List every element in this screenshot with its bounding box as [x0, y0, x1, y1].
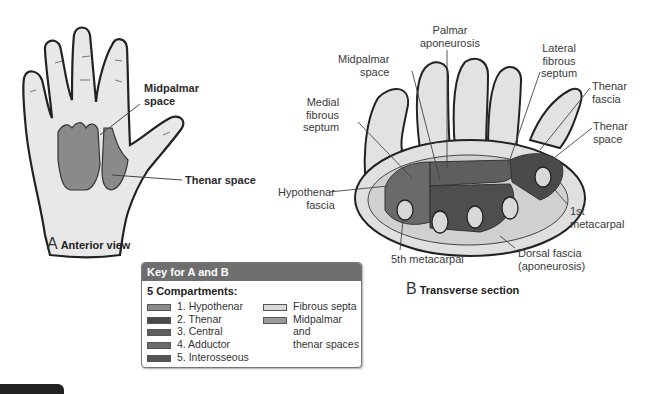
- swatch-fibrous-septa: [263, 304, 287, 311]
- legend-label-line: thenar spaces: [293, 338, 359, 350]
- legend-compartments: 1. Hypothenar 2. Thenar 3. Central 4. Ad…: [147, 300, 249, 364]
- label-hypothenar-fascia: Hypothenar fascia: [278, 186, 335, 211]
- label-line: septum: [541, 67, 577, 80]
- legend-label: 3. Central: [177, 325, 223, 338]
- label-line: Midpalmar: [338, 53, 389, 66]
- label-a-midpalmar-space: Midpalmar space: [144, 82, 199, 107]
- legend-item: Fibrous septa: [263, 300, 361, 313]
- label-line: Hypothenar: [278, 186, 335, 199]
- label-line: fascia: [278, 199, 335, 212]
- corner-tab: [0, 384, 64, 394]
- label-dorsal-fascia: Dorsal fascia (aponeurosis): [518, 247, 585, 272]
- legend-item: 4. Adductor: [147, 338, 249, 351]
- legend-label: 1. Hypothenar: [177, 300, 243, 313]
- label-line: space: [338, 66, 389, 79]
- swatch-central: [147, 329, 171, 336]
- swatch-hypothenar: [147, 304, 171, 311]
- label-line: Thenar: [592, 80, 627, 93]
- label-line: metacarpal: [570, 218, 624, 231]
- label-line: Thenar: [593, 120, 628, 133]
- label-line: Medial: [303, 96, 339, 109]
- hand-transverse-illustration: [329, 50, 592, 256]
- legend-other: Fibrous septa Midpalmar andthenar spaces: [263, 300, 361, 351]
- caption-a-letter: A: [47, 235, 58, 252]
- caption-b: BTransverse section: [406, 280, 519, 298]
- label-line: space: [593, 133, 628, 146]
- label-b-thenar-space: Thenar space: [593, 120, 628, 145]
- legend-key: Key for A and B 5 Compartments: 1. Hypot…: [141, 262, 362, 368]
- swatch-adductor: [147, 342, 171, 349]
- label-line: septum: [303, 121, 339, 134]
- label-line: 1st: [570, 205, 624, 218]
- label-5th-metacarpal: 5th metacarpal: [391, 253, 464, 266]
- label-line: space: [144, 95, 199, 108]
- legend-label: 5. Interosseous: [177, 351, 249, 364]
- legend-subtitle: 5 Compartments:: [147, 285, 356, 297]
- caption-a-text: Anterior view: [61, 239, 131, 251]
- legend-item: 3. Central: [147, 325, 249, 338]
- legend-item: 1. Hypothenar: [147, 300, 249, 313]
- label-b-midpalmar-space: Midpalmar space: [338, 53, 389, 78]
- legend-label: 4. Adductor: [177, 338, 230, 351]
- swatch-interosseous: [147, 355, 171, 362]
- label-line: aponeurosis: [420, 37, 480, 50]
- label-thenar-fascia: Thenar fascia: [592, 80, 627, 105]
- legend-body: 5 Compartments: 1. Hypothenar 2. Thenar …: [142, 281, 361, 303]
- caption-b-letter: B: [406, 280, 417, 297]
- legend-item: 2. Thenar: [147, 313, 249, 326]
- label-medial-fibrous-septum: Medial fibrous septum: [303, 96, 339, 134]
- swatch-thenar: [147, 317, 171, 324]
- legend-label: Midpalmar andthenar spaces: [293, 313, 361, 351]
- label-line: (aponeurosis): [518, 260, 585, 273]
- label-palmar-aponeurosis: Palmar aponeurosis: [420, 24, 480, 49]
- legend-label: Fibrous septa: [293, 300, 357, 313]
- label-lateral-fibrous-septum: Lateral fibrous septum: [541, 42, 577, 80]
- label-line: fibrous: [303, 109, 339, 122]
- label-line: Lateral: [541, 42, 577, 55]
- legend-item: Midpalmar andthenar spaces: [263, 313, 361, 351]
- label-line: Palmar: [420, 24, 480, 37]
- caption-a: AAnterior view: [47, 235, 130, 253]
- legend-title: Key for A and B: [142, 263, 361, 281]
- label-line: Midpalmar: [144, 82, 199, 95]
- legend-item: 5. Interosseous: [147, 351, 249, 364]
- label-line: fibrous: [541, 55, 577, 68]
- label-line: fascia: [592, 93, 627, 106]
- label-line: Dorsal fascia: [518, 247, 585, 260]
- legend-label-line: Midpalmar and: [293, 313, 342, 338]
- caption-b-text: Transverse section: [420, 284, 520, 296]
- label-1st-metacarpal: 1st metacarpal: [570, 205, 624, 230]
- hand-anterior-illustration: [23, 28, 183, 258]
- label-a-thenar-space: Thenar space: [185, 174, 256, 187]
- legend-label: 2. Thenar: [177, 313, 222, 326]
- swatch-spaces: [263, 317, 287, 324]
